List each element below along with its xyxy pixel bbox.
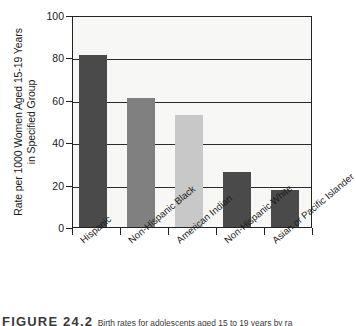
y-axis-tick-label: 60	[40, 96, 64, 106]
figure-number: FIGURE 24.2	[2, 314, 93, 326]
x-axis-tick-mark	[120, 228, 121, 235]
x-axis-tick-mark	[72, 228, 73, 235]
y-axis-tick-label: 0	[40, 223, 64, 233]
caption-text: Birth rates for adolescents aged 15 to 1…	[98, 318, 293, 326]
y-axis-title: Rate per 1000 Women Aged 15-19 Years in …	[8, 16, 42, 228]
bar	[79, 55, 108, 227]
x-axis-tick-mark	[216, 228, 217, 235]
y-axis-tick-label: 40	[40, 138, 64, 148]
y-axis-tick-label: 100	[40, 11, 64, 21]
gridline	[73, 59, 311, 60]
figure-caption: FIGURE 24.2 Birth rates for adolescents …	[2, 312, 323, 326]
y-axis-title-line-2: in Specified Group	[25, 28, 38, 216]
x-axis-tick-mark	[264, 228, 265, 235]
y-axis-title-line-1: Rate per 1000 Women Aged 15-19 Years	[12, 28, 25, 216]
y-axis-tick-label: 20	[40, 181, 64, 191]
y-axis-tick-labels: 020406080100	[40, 0, 64, 326]
x-axis-tick-mark	[312, 228, 313, 235]
bar	[127, 98, 156, 227]
gridline	[73, 102, 311, 103]
y-axis-tick-label: 80	[40, 53, 64, 63]
bar	[175, 115, 204, 227]
x-axis-tick-mark	[168, 228, 169, 235]
